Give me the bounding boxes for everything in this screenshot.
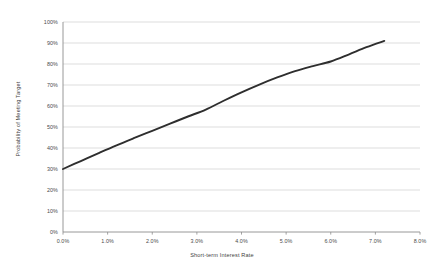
y-tick-label: 100%: [18, 19, 58, 25]
x-axis-title: Short-term Interest Rate: [0, 252, 444, 258]
x-tick-label: 4.0%: [222, 238, 262, 244]
y-tick-label: 0%: [18, 229, 58, 235]
x-tick-label: 8.0%: [400, 238, 440, 244]
x-tick-label: 1.0%: [88, 238, 128, 244]
x-tick-label: 3.0%: [177, 238, 217, 244]
gridlines-group: [63, 22, 420, 211]
x-tick-label: 2.0%: [132, 238, 172, 244]
y-axis-title-wrapper: Probability of Meeting Target: [15, 29, 29, 209]
y-axis-title: Probability of Meeting Target: [15, 29, 21, 209]
chart-container: 0%10%20%30%40%50%60%70%80%90%100% 0.0%1.…: [0, 0, 444, 268]
chart-plot-svg: [0, 0, 444, 268]
x-tick-label: 6.0%: [311, 238, 351, 244]
x-tick-label: 0.0%: [43, 238, 83, 244]
data-series-line: [63, 41, 384, 169]
x-tick-label: 5.0%: [266, 238, 306, 244]
x-tick-label: 7.0%: [355, 238, 395, 244]
